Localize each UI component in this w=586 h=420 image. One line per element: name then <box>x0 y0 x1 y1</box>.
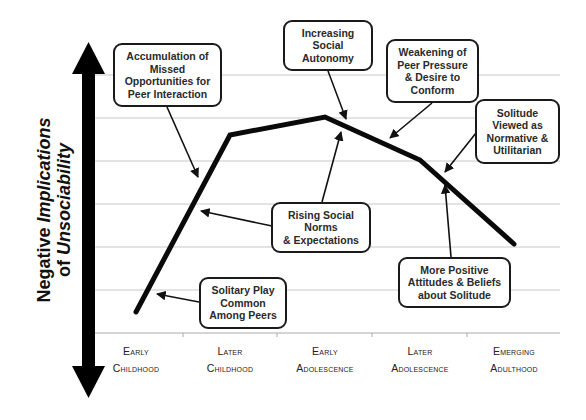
callout-solitary-play: Solitary Play Common Among Peers <box>199 277 287 329</box>
y-axis-label-italic: Unsociability <box>54 143 74 255</box>
callout-text: Solitude <box>487 107 549 120</box>
y-axis-label-italic: Implications <box>34 117 54 222</box>
callout-text: Conform <box>397 84 468 97</box>
y-axis-label-word: Negative <box>34 223 54 303</box>
callout-text: & Expectations <box>283 234 359 247</box>
callout-positive-attitudes: More Positive Attitudes & Beliefs about … <box>398 257 511 308</box>
y-axis-label-word: of <box>54 255 74 277</box>
callout-text: Autonomy <box>302 52 355 65</box>
x-label-line: Early <box>277 343 373 360</box>
x-label-line: Adolescence <box>277 360 373 377</box>
diagram-canvas: Negative Implications of Unsociability A… <box>0 0 586 420</box>
x-label-early-childhood: Early Childhood <box>88 343 184 377</box>
callout-text: about Solitude <box>408 289 501 302</box>
x-label-later-adolescence: Later Adolescence <box>372 343 468 377</box>
x-label-line: Adulthood <box>466 360 562 377</box>
x-label-line: Later <box>182 343 278 360</box>
callout-text: Opportunities for <box>125 75 211 88</box>
callout-text: Utilitarian <box>487 144 549 157</box>
x-label-line: Later <box>372 343 468 360</box>
callout-text: Norms <box>283 221 359 234</box>
callout-text: Rising Social <box>283 209 359 222</box>
x-label-line: Adolescence <box>372 360 468 377</box>
x-label-later-childhood: Later Childhood <box>182 343 278 377</box>
callout-text: Among Peers <box>209 309 277 322</box>
x-label-emerging-adulthood: Emerging Adulthood <box>466 343 562 377</box>
callout-weakening-peer-pressure: Weakening of Peer Pressure & Desire to C… <box>386 39 479 103</box>
x-label-line: Childhood <box>182 360 278 377</box>
x-label-early-adolescence: Early Adolescence <box>277 343 373 377</box>
x-axis-line <box>92 333 560 337</box>
callout-text: More Positive <box>408 264 501 277</box>
callout-text: & Desire to <box>397 71 468 84</box>
y-axis-label: Negative Implications of Unsociability <box>34 90 74 330</box>
callout-text: Accumulation of <box>125 50 211 63</box>
callout-text: Peer Pressure <box>397 59 468 72</box>
callout-accumulation: Accumulation of Missed Opportunities for… <box>113 43 222 107</box>
callout-solitude-normative: Solitude Viewed as Normative & Utilitari… <box>475 99 560 164</box>
callout-text: Solitary Play <box>209 284 277 297</box>
x-label-line: Early <box>88 343 184 360</box>
x-label-line: Emerging <box>466 343 562 360</box>
x-label-line: Childhood <box>88 360 184 377</box>
callout-increasing-autonomy: Increasing Social Autonomy <box>283 20 373 71</box>
callout-text: Missed <box>125 63 211 76</box>
callout-text: Social <box>302 39 355 52</box>
callout-text: Viewed as <box>487 119 549 132</box>
callout-text: Increasing <box>302 27 355 40</box>
callout-text: Weakening of <box>397 46 468 59</box>
callout-text: Common <box>209 297 277 310</box>
callout-text: Peer Interaction <box>125 88 211 101</box>
callout-text: Normative & <box>487 132 549 145</box>
callout-text: Attitudes & Beliefs <box>408 276 501 289</box>
callout-rising-norms: Rising Social Norms & Expectations <box>271 202 371 253</box>
